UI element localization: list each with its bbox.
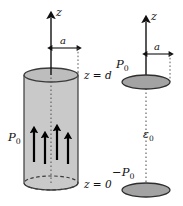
cylinder-body-fill	[24, 75, 78, 190]
top-charge-disk	[122, 75, 170, 89]
left-z-axis-label: z	[55, 6, 62, 19]
top-charge-label: P0	[115, 57, 129, 73]
bottom-charge-disk	[122, 183, 170, 197]
left-top-plane-label: z = d	[83, 69, 112, 81]
left-polarization-label: P0	[7, 130, 21, 146]
bottom-charge-label: −P0	[112, 165, 134, 181]
left-radius-label: a	[60, 35, 66, 46]
right-radius-label: a	[154, 41, 160, 52]
right-z-axis-label: z	[150, 10, 157, 23]
right-panel-group: z a P0 −P0 ε0	[112, 10, 170, 197]
left-panel-group: z a P0 z = d z = 0	[7, 6, 112, 190]
permittivity-label: ε0	[143, 128, 154, 143]
physics-figure: z a P0 z = d z = 0 z a P0 −P0 ε	[0, 0, 183, 206]
left-bottom-plane-label: z = 0	[83, 178, 112, 190]
figure-canvas: z a P0 z = d z = 0 z a P0 −P0 ε	[0, 0, 183, 206]
